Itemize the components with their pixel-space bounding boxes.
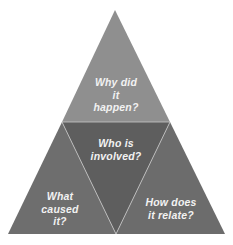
segment-top-label: Why did it happen? xyxy=(80,76,152,114)
segment-left-label: What caused it? xyxy=(28,190,92,228)
pyramid-diagram: Why did it happen? Who is involved? What… xyxy=(0,0,233,245)
segment-right-label: How does it relate? xyxy=(138,196,204,221)
segment-center-label: Who is involved? xyxy=(80,137,152,162)
